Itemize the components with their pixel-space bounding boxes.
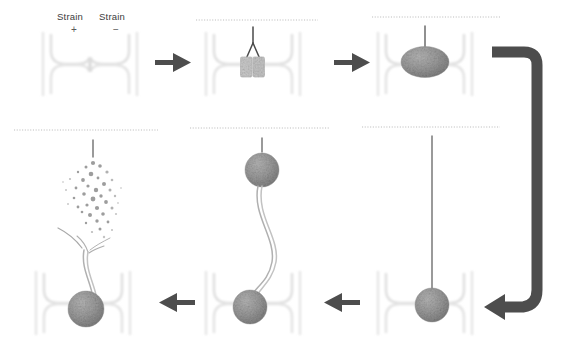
captured-cell-left <box>241 57 253 77</box>
strain-plus-sign: + <box>71 24 77 35</box>
strain-plus-label: Strain <box>57 11 83 22</box>
figure-canvas <box>0 0 568 359</box>
captured-cell-right <box>253 57 265 77</box>
fused-cell-aggregate <box>401 47 449 78</box>
lower-cell-aggregate <box>68 291 104 327</box>
upper-cell-aggregate <box>245 153 279 187</box>
cell-aggregate <box>415 288 449 322</box>
strain-minus-label: Strain <box>99 11 125 22</box>
lower-cell-aggregate <box>233 290 267 324</box>
strain-minus-sign: − <box>113 24 119 35</box>
